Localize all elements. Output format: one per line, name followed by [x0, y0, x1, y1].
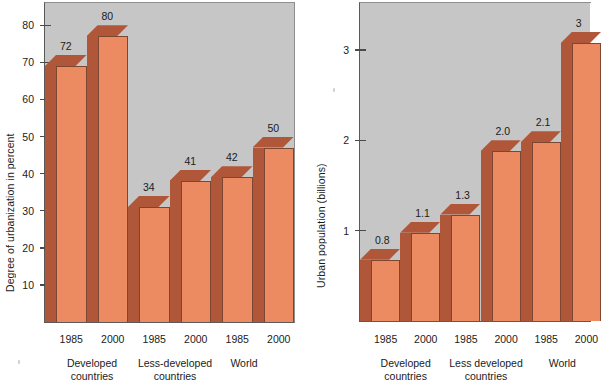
bar: 2.0 — [481, 140, 521, 321]
bar-top-face — [521, 131, 561, 142]
bar-side-face — [521, 142, 533, 321]
y-tick-mark — [355, 49, 366, 51]
x-tick-label: 1985 — [60, 333, 83, 345]
x-tick-label: 2000 — [267, 333, 290, 345]
bar-front-face — [56, 66, 87, 322]
x-group-label-line1: Developed — [381, 357, 431, 370]
bar-front-face — [98, 36, 129, 322]
x-group-label: Developedcountries — [67, 357, 117, 382]
bar-front-face — [139, 207, 170, 322]
bar-front-face — [572, 43, 601, 321]
bar-front-face — [532, 142, 561, 321]
bar-top-face — [440, 204, 480, 215]
x-group-label: World — [230, 357, 257, 370]
x-group-label-line2: countries — [67, 370, 117, 383]
bar: 3 — [561, 32, 601, 321]
x-tick-label: 1985 — [226, 333, 249, 345]
x-group-label-line1: Developed — [67, 357, 117, 370]
scan-speck — [18, 360, 20, 364]
bar-top-face — [561, 32, 601, 43]
y-tick-label: 40 — [11, 168, 34, 180]
y-tick-label: 50 — [11, 131, 34, 143]
x-tick-label: 1985 — [535, 333, 558, 345]
bar-front-face — [222, 177, 253, 322]
bar-side-face — [253, 148, 265, 322]
bar-top-face — [128, 196, 170, 207]
y-tick-label: 1 — [326, 225, 349, 237]
bar: 2.1 — [521, 131, 561, 321]
bar-top-face — [45, 55, 87, 66]
y-tick-mark — [40, 25, 51, 27]
y-axis-label: Urban population (billions) — [315, 88, 327, 288]
x-tick-label: 2000 — [575, 333, 598, 345]
bar-side-face — [360, 260, 372, 321]
bar-side-face — [211, 177, 223, 322]
y-tick-label: 70 — [11, 56, 34, 68]
bar-side-face — [400, 233, 412, 321]
x-group-label: Less-developedcountries — [138, 357, 212, 382]
bar-front-face — [411, 233, 440, 321]
x-tick-label: 2000 — [414, 333, 437, 345]
bar-side-face — [481, 151, 493, 321]
x-group-label-line1: World — [549, 357, 576, 370]
x-tick-label: 2000 — [494, 333, 517, 345]
bar-value-label: 34 — [143, 181, 155, 193]
bar-value-label: 41 — [185, 155, 197, 167]
bar-top-face — [360, 249, 400, 260]
bar-value-label: 80 — [102, 10, 114, 22]
x-group-label-line1: Less developed — [449, 357, 523, 370]
x-tick-label: 1985 — [374, 333, 397, 345]
x-group-label: Developedcountries — [381, 357, 431, 382]
bar-side-face — [128, 207, 140, 322]
bar-side-face — [87, 36, 99, 322]
chart-panel-urban-population: Urban population (billions) 123 0.81.11.… — [295, 0, 590, 383]
bar-side-face — [170, 181, 182, 322]
y-tick-label: 2 — [326, 134, 349, 146]
bar: 72 — [45, 55, 87, 322]
bar-top-face — [170, 170, 212, 181]
x-group-label-line2: countries — [138, 370, 212, 383]
bar-top-face — [87, 25, 129, 36]
bar-value-label: 72 — [60, 40, 72, 52]
bar-top-face — [400, 222, 440, 233]
bar-value-label: 0.8 — [375, 234, 390, 246]
y-tick-label: 20 — [11, 242, 34, 254]
bar-value-label: 2.0 — [496, 125, 511, 137]
bar-side-face — [45, 66, 57, 322]
x-group-label-line1: Less-developed — [138, 357, 212, 370]
bar: 1.1 — [400, 222, 440, 321]
bar-value-label: 1.3 — [455, 189, 470, 201]
y-tick-label: 30 — [11, 205, 34, 217]
bar-side-face — [561, 43, 573, 321]
bar-value-label: 1.1 — [415, 207, 430, 219]
y-tick-label: 60 — [11, 93, 34, 105]
bar-front-face — [264, 148, 295, 322]
x-group-label-line2: countries — [449, 370, 523, 383]
bar: 42 — [211, 166, 253, 322]
bar: 34 — [128, 196, 170, 322]
y-tick-label: 10 — [11, 279, 34, 291]
bar-front-face — [451, 215, 480, 321]
bar-side-face — [440, 215, 452, 321]
bar-front-face — [371, 260, 400, 321]
x-tick-label: 1985 — [143, 333, 166, 345]
x-group-label-line2: countries — [381, 370, 431, 383]
x-group-label: Less developedcountries — [449, 357, 523, 382]
bar-value-label: 42 — [226, 151, 238, 163]
x-tick-label: 1985 — [454, 333, 477, 345]
bar: 0.8 — [360, 249, 400, 321]
scan-speck — [333, 88, 335, 92]
bar: 80 — [87, 25, 129, 322]
bar-top-face — [481, 140, 521, 151]
y-tick-mark — [355, 140, 366, 142]
bar-value-label: 50 — [268, 122, 280, 134]
bar-top-face — [253, 137, 295, 148]
bar-front-face — [181, 181, 212, 322]
bar: 1.3 — [440, 204, 480, 321]
x-group-label: World — [549, 357, 576, 370]
x-group-label-line1: World — [230, 357, 257, 370]
bar-top-face — [211, 166, 253, 177]
y-tick-label: 80 — [11, 19, 34, 31]
bar: 50 — [253, 137, 295, 322]
